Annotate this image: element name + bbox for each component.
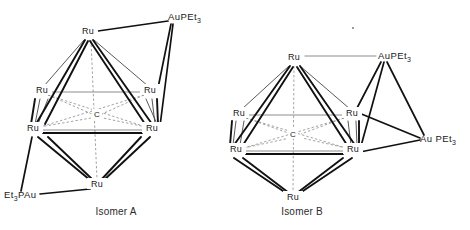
bond-dashed-c-lower-right-b: [302, 138, 346, 148]
bond-aupet3-lower-to-lower-right-b: [360, 140, 420, 152]
bond-lower-left-to-apex-bottom-b: [234, 158, 286, 193]
ligand-aupet3-upper-text-b: AuPEt: [378, 50, 407, 61]
bond-aupet3-upper-to-lower-right-b: [361, 62, 384, 146]
bond-apex-top-to-upper-left-a: [44, 40, 84, 86]
stray-speck-b: [352, 27, 354, 29]
bond-right-vertical-a: [157, 99, 158, 124]
bond-left-vertical-b: [230, 121, 232, 145]
ligand-aupet3-lower-sub-b: 3: [452, 139, 456, 146]
bond-cross-right-a: [146, 99, 157, 124]
bond-upper-right-to-lower-right-thin-b: [348, 121, 351, 145]
atom-ru-lower-left-b: Ru: [230, 144, 242, 154]
bond-upper-right-to-lower-right-thin-a: [152, 99, 155, 124]
ligand-et3pau-tail-a: PAu: [18, 189, 36, 200]
atom-carbide-center-a: C: [94, 110, 100, 119]
atom-ru-apex-top-a: Ru: [82, 26, 94, 36]
ligand-aupet3-text-a: AuPEt: [168, 11, 197, 22]
ligand-aupet3-lower-right-b: Au PEt3: [420, 133, 456, 146]
bond-et3pau-to-lower-left-a: [21, 137, 32, 191]
atom-carbide-center-b: C: [290, 130, 296, 139]
bond-lower-right-to-apex-bottom-b: [300, 158, 352, 193]
atom-ru-upper-left-a: Ru: [36, 85, 48, 95]
atom-ru-upper-right-a: Ru: [144, 85, 156, 95]
isomer-a-group: Ru Ru Ru Ru Ru Ru C AuPEt3 Et3PAu Isomer…: [4, 11, 201, 217]
ligand-et3pau-bottom-left-a: Et3PAu: [4, 189, 37, 202]
bond-lower-right-to-apex-bottom-a: [104, 137, 150, 180]
bond-apex-top-to-lower-right-b: [300, 66, 355, 145]
bond-lower-left-to-apex-bottom-a: [38, 137, 90, 180]
atom-ru-upper-left-b: Ru: [233, 108, 245, 118]
ligand-aupet3-upper-right-b: AuPEt3: [378, 50, 411, 63]
atom-ru-apex-bottom-a: Ru: [91, 179, 103, 189]
bond-aupet3-upper-to-aupet3-lower-b: [387, 62, 424, 135]
bond-lower-left-to-apex-bottom-inner-b: [243, 158, 289, 193]
ligand-aupet3-top-right-a: AuPEt3: [168, 11, 201, 24]
atom-ru-apex-top-b: Ru: [288, 52, 300, 62]
atom-ru-lower-right-a: Ru: [146, 123, 158, 133]
bond-left-vertical-a: [31, 99, 35, 124]
bond-lower-left-to-apex-bottom-inner-a: [48, 137, 93, 180]
caption-isomer-b: Isomer B: [281, 206, 323, 217]
bond-apex-top-to-upper-left-b: [242, 66, 289, 109]
atom-ru-upper-right-b: Ru: [346, 108, 358, 118]
bond-dashed-c-lower-left-b: [244, 138, 290, 148]
cluster-structure-diagram: Ru Ru Ru Ru Ru Ru C AuPEt3 Et3PAu Isomer…: [0, 0, 470, 230]
bond-lower-right-to-apex-bottom-inner-b: [297, 158, 343, 193]
atom-ru-lower-right-b: Ru: [347, 144, 359, 154]
ligand-aupet3-lower-text-b: Au PEt: [420, 133, 452, 144]
caption-isomer-a: Isomer A: [95, 206, 136, 217]
ligand-aupet3-sub-a: 3: [197, 17, 201, 24]
bond-apex-top-to-lower-left-inner-a: [45, 41, 88, 124]
bond-aupet3-to-lower-right-a: [160, 24, 173, 126]
bond-apex-top-to-lower-right-inner-b: [297, 67, 347, 145]
figure-root: Ru Ru Ru Ru Ru Ru C AuPEt3 Et3PAu Isomer…: [0, 0, 470, 230]
ligand-et3pau-text-a: Et: [4, 189, 14, 200]
bond-apex-top-to-lower-left-b: [234, 66, 290, 145]
bond-aupet3-lower-to-upper-right-b: [359, 113, 420, 138]
bond-dashed-c-lower-right-a: [103, 118, 146, 127]
bond-dashed-c-upper-left-b: [246, 118, 291, 134]
isomer-b-group: Ru Ru Ru Ru Ru C Ru AuPEt3 Au PEt3 Isome…: [226, 27, 456, 217]
atom-ru-apex-bottom-b: Ru: [287, 192, 299, 202]
bond-cross-right-b: [356, 121, 357, 145]
bond-aupet3-to-apex-top-a: [98, 21, 168, 31]
ligand-aupet3-upper-sub-b: 3: [407, 56, 411, 63]
atom-ru-lower-left-a: Ru: [27, 123, 39, 133]
bond-apex-top-to-lower-left-a: [36, 40, 85, 124]
bond-apex-top-to-lower-left-inner-b: [243, 67, 293, 145]
bond-lower-right-to-apex-bottom-inner-a: [101, 137, 141, 180]
bond-et3pau-to-apex-bottom-a: [40, 189, 90, 194]
